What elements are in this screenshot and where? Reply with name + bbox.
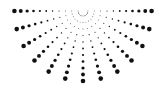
dot: [70, 32, 71, 33]
dot: [46, 69, 51, 74]
dot: [61, 32, 62, 33]
dot: [78, 12, 79, 13]
dot: [81, 73, 85, 77]
dot: [97, 70, 101, 74]
dot: [140, 44, 145, 49]
dot: [64, 43, 66, 45]
dot: [103, 48, 105, 50]
dot: [85, 15, 86, 16]
dot: [114, 29, 116, 31]
dot: [37, 54, 41, 58]
dot: [82, 60, 85, 63]
dot: [94, 11, 95, 12]
dot: [74, 40, 75, 41]
dot: [117, 45, 120, 48]
dot: [78, 13, 79, 14]
dot: [45, 10, 47, 12]
dot: [27, 41, 31, 45]
dot: [112, 41, 114, 43]
dot: [19, 9, 23, 13]
dot: [72, 14, 73, 15]
dot: [65, 28, 66, 29]
dot: [81, 15, 82, 16]
dot: [104, 32, 105, 33]
dot: [101, 43, 103, 45]
dot: [50, 64, 54, 68]
dot: [86, 14, 87, 15]
dot: [73, 46, 75, 48]
dot: [129, 23, 132, 26]
dot: [125, 54, 129, 58]
dot: [91, 26, 92, 27]
dot: [80, 22, 81, 23]
dot: [83, 16, 84, 17]
dot: [40, 21, 42, 23]
dot: [98, 76, 103, 81]
dot: [27, 24, 30, 27]
dot: [98, 20, 99, 21]
dot: [124, 21, 126, 23]
dot: [75, 19, 76, 20]
dot: [87, 13, 88, 14]
dot: [74, 26, 75, 27]
dot: [94, 32, 95, 33]
dot: [32, 10, 35, 13]
dot: [56, 26, 57, 27]
dot: [65, 70, 69, 74]
dot: [83, 22, 84, 23]
dot: [59, 17, 60, 18]
dot: [60, 48, 62, 50]
dot: [125, 35, 128, 38]
dot: [106, 53, 109, 56]
dot: [91, 19, 92, 20]
dot: [78, 28, 79, 29]
dot: [42, 50, 45, 53]
dot: [53, 59, 56, 62]
dot: [103, 23, 104, 24]
dot: [89, 34, 90, 35]
dot: [67, 37, 68, 38]
dot: [90, 40, 91, 41]
dot: [137, 9, 140, 12]
dot: [26, 9, 29, 12]
dot: [67, 20, 68, 21]
dot: [87, 28, 88, 29]
dot: [47, 45, 50, 48]
dot: [12, 9, 17, 14]
dot: [87, 12, 88, 13]
dot: [92, 46, 94, 48]
dot: [81, 66, 84, 69]
dot: [118, 20, 120, 22]
dot: [82, 41, 83, 42]
dot: [143, 9, 147, 13]
dot: [70, 23, 71, 24]
dot: [121, 50, 124, 53]
dot: [88, 21, 89, 22]
dot: [109, 26, 110, 27]
dot: [108, 37, 110, 39]
dot: [34, 23, 37, 26]
dot: [67, 64, 70, 67]
dot: [81, 79, 86, 84]
dot: [113, 10, 114, 11]
dot: [112, 18, 113, 19]
dot: [86, 22, 87, 23]
dot: [82, 54, 84, 56]
dot: [79, 14, 80, 15]
dot: [84, 15, 85, 16]
dot: [69, 58, 72, 61]
dot: [92, 16, 93, 17]
dot: [147, 27, 152, 32]
dot: [33, 38, 36, 41]
dot: [50, 29, 52, 31]
dot: [82, 48, 84, 50]
dot: [39, 35, 42, 38]
dot: [14, 27, 19, 32]
dot: [63, 76, 68, 81]
dot: [47, 20, 49, 22]
dot: [39, 10, 41, 12]
dot: [53, 18, 54, 19]
dot: [112, 64, 116, 68]
dot: [131, 10, 134, 13]
dot: [93, 14, 94, 15]
